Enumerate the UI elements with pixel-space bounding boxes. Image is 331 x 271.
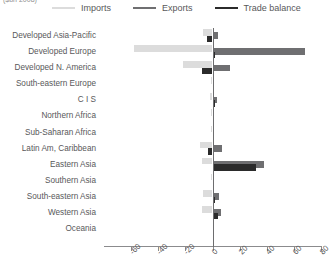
bar-exports (213, 48, 305, 55)
category-label: Western Asia (0, 205, 99, 221)
category-label: Developed Europe (0, 44, 99, 60)
category-label: Latin Am, Caribbean (0, 141, 99, 157)
legend-swatch-trade-balance (215, 7, 238, 9)
category-label: Eastern Asia (0, 157, 99, 173)
legend-item-imports: Imports (52, 4, 111, 13)
category-label: C I S (0, 92, 99, 108)
legend-item-trade-balance: Trade balance (215, 4, 301, 13)
axis-tick-label: -40 (155, 242, 170, 257)
axis-tick-label: -20 (182, 242, 197, 257)
zero-baseline (213, 28, 214, 221)
legend-label-trade-balance: Trade balance (244, 4, 301, 13)
bar-exports (213, 145, 222, 152)
category-label: Northern Africa (0, 108, 99, 124)
bar-imports (203, 29, 212, 36)
category-label: Sub-Saharan Africa (0, 125, 99, 141)
bar-imports (183, 61, 213, 68)
legend-item-exports: Exports (133, 4, 193, 13)
bar-imports (134, 45, 213, 52)
category-label: Developed Asia-Pacific (0, 28, 99, 44)
chart-legend: Imports Exports Trade balance (52, 1, 323, 15)
bar-imports (200, 142, 212, 149)
category-label: Southern Asia (0, 173, 99, 189)
bar-imports (202, 206, 213, 213)
legend-swatch-exports (133, 7, 156, 9)
category-axis-labels: Developed Asia-PacificDeveloped EuropeDe… (0, 28, 99, 237)
bar-exports (213, 65, 231, 72)
bar-trade-balance (213, 164, 256, 171)
legend-label-imports: Imports (81, 4, 111, 13)
category-label: South-eastern Europe (0, 76, 99, 92)
axis-tick-label: 0 (210, 247, 220, 257)
unit-caption: ($bn 2008) (3, 0, 37, 3)
bar-trade-balance (202, 68, 213, 75)
plot-area (104, 28, 321, 221)
bar-imports (202, 158, 213, 165)
category-label: South-eastern Asia (0, 189, 99, 205)
category-label: Oceania (0, 221, 99, 237)
legend-swatch-imports (52, 7, 75, 9)
legend-label-exports: Exports (162, 4, 193, 13)
category-label: Developed N. America (0, 60, 99, 76)
axis-tick-label: -60 (128, 242, 143, 257)
zero-baseline-extension (213, 221, 214, 247)
bar-imports (203, 190, 212, 197)
